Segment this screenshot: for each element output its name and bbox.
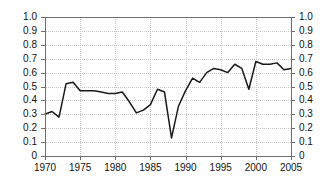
y-axis-right-tick-label: 1.0 [299, 12, 313, 22]
y-axis-left-line [45, 17, 46, 156]
y-axis-left-tick-label: 0.1 [23, 137, 37, 147]
y-axis-left-tick-label: 0.5 [23, 82, 37, 92]
y-axis-left-tick-label: 0.7 [23, 54, 37, 64]
x-tick [256, 156, 257, 160]
y-axis-right-tick-label: 0.8 [299, 40, 313, 50]
y-tick-left [41, 128, 45, 129]
y-axis-left-tick-label: 0.4 [23, 95, 37, 105]
x-tick [150, 156, 151, 160]
y-axis-right-tick-label: 0.7 [299, 54, 313, 64]
y-axis-right-tick-label: 0.4 [299, 95, 313, 105]
y-tick-left [41, 45, 45, 46]
y-axis-left-tick-label: 0.9 [23, 26, 37, 36]
y-tick-right [291, 100, 295, 101]
x-axis-line [45, 156, 291, 157]
y-tick-left [41, 73, 45, 74]
y-axis-left-tick-label: 0.3 [23, 109, 37, 119]
y-tick-right [291, 87, 295, 88]
y-tick-right [291, 73, 295, 74]
x-axis-tick-label: 1975 [69, 163, 91, 173]
y-axis-right-tick-label: 0.6 [299, 68, 313, 78]
x-tick [80, 156, 81, 160]
y-axis-right-tick-label: 0.5 [299, 82, 313, 92]
y-tick-right [291, 31, 295, 32]
x-tick [221, 156, 222, 160]
x-tick [115, 156, 116, 160]
x-axis-tick-label: 1980 [104, 163, 126, 173]
y-tick-left [41, 142, 45, 143]
x-tick [291, 156, 292, 160]
x-axis-tick-label: 2005 [280, 163, 302, 173]
y-tick-left [41, 59, 45, 60]
y-axis-left-tick-label: 0.2 [23, 123, 37, 133]
y-tick-right [291, 142, 295, 143]
y-tick-left [41, 100, 45, 101]
y-axis-left-tick-label: 1.0 [23, 12, 37, 22]
y-tick-left [41, 87, 45, 88]
y-tick-right [291, 128, 295, 129]
x-tick [45, 156, 46, 160]
x-axis-tick-label: 1985 [139, 163, 161, 173]
x-axis-tick-label: 1995 [210, 163, 232, 173]
y-tick-left [41, 114, 45, 115]
series-polyline [45, 61, 291, 137]
y-axis-right-tick-label: 0.9 [299, 26, 313, 36]
x-axis-tick-label: 1970 [34, 163, 56, 173]
y-axis-left-tick-label: 0.6 [23, 68, 37, 78]
y-axis-right-tick-label: 0.1 [299, 137, 313, 147]
y-axis-right-tick-label: 0.2 [299, 123, 313, 133]
y-axis-left-tick-label: 0 [31, 151, 37, 161]
data-series-line [45, 17, 291, 156]
x-tick [186, 156, 187, 160]
y-tick-right [291, 114, 295, 115]
y-axis-right-tick-label: 0 [299, 151, 305, 161]
y-tick-right [291, 45, 295, 46]
y-tick-left [41, 17, 45, 18]
y-axis-right-tick-label: 0.3 [299, 109, 313, 119]
y-tick-left [41, 31, 45, 32]
y-tick-right [291, 59, 295, 60]
x-axis-tick-label: 2000 [245, 163, 267, 173]
y-axis-left-tick-label: 0.8 [23, 40, 37, 50]
y-tick-right [291, 17, 295, 18]
x-axis-tick-label: 1990 [174, 163, 196, 173]
plot-area [45, 17, 291, 156]
line-chart: 00.10.20.30.40.50.60.70.80.91.0 00.10.20… [0, 0, 335, 183]
axis-frame-top [45, 17, 291, 18]
